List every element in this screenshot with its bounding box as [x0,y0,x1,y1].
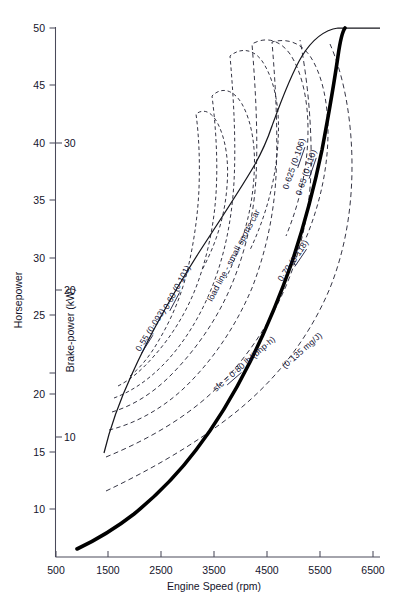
y-tick-label: 25 [33,309,45,321]
label-sfc-definition-si: (0·135 mg/J) [280,330,324,370]
y-axis-ticks-hp [50,28,56,509]
y-tick-label: 45 [33,79,45,91]
y-axis-title-brake-power: Brake-power (kW) [64,288,76,373]
y-tick-label: 15 [33,446,45,458]
y-axis-title-horsepower: Horsepower [12,271,24,328]
x-axis-ticks [56,551,373,557]
x-tick-label: 5500 [308,564,332,576]
x-tick-label: 3500 [202,564,226,576]
x-axis-title: Engine Speed (rpm) [167,580,261,592]
chart-plot-area: 50 45 40 35 30 25 20 15 10 30 20 10 500 … [0,0,404,610]
y-tick-label-kw: 30 [64,137,76,149]
y-tick-label: 30 [33,252,45,264]
y-tick-label: 20 [33,388,45,400]
x-tick-label: 2500 [149,564,173,576]
y-tick-label: 40 [33,137,45,149]
x-tick-label: 500 [47,564,65,576]
x-tick-labels: 500 1500 2500 3500 4500 5500 6500 [47,564,385,576]
engine-performance-chart: 50 45 40 35 30 25 20 15 10 30 20 10 500 … [0,0,404,610]
curve-annotations: 0·55 (0·093) 0·60 (0·101) load line - sm… [133,137,324,394]
y-tick-label: 35 [33,194,45,206]
y-tick-labels-hp: 50 45 40 35 30 25 20 15 10 [33,22,45,515]
y-tick-label-kw: 10 [64,431,76,443]
y-tick-label: 50 [33,22,45,34]
label-load-line: load line - small sports car [205,208,262,303]
label-sfc-0-70: 0·70 (0·118) [275,238,310,283]
label-sfc-definition: sfc = 0·80 lb/(bhp·h) [211,334,277,394]
label-sfc-0-60: 0·60 (0·101) [161,263,193,311]
sfc-contour-0-65 [109,41,328,430]
x-tick-label: 4500 [255,564,279,576]
y-tick-label: 10 [33,503,45,515]
y-axis-ticks-kw [56,143,63,437]
x-tick-label: 1500 [96,564,120,576]
sfc-contour-0-625 [112,40,308,412]
x-tick-label: 6500 [361,564,385,576]
